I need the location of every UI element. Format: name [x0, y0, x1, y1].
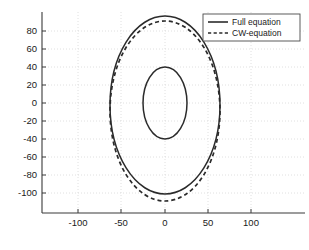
chart-legend: Full equation CW-equation [203, 14, 300, 41]
y-tick-label: -60 [23, 151, 37, 162]
y-tick-label: -80 [23, 169, 37, 180]
y-tick-label: 20 [26, 79, 37, 90]
chart-figure: 80 60 40 20 0 -20 -40 -60 -80 -100 -100 … [0, 0, 309, 250]
y-tick-label: 40 [26, 61, 37, 72]
x-tick-label: 50 [203, 217, 214, 228]
y-tick-label: -40 [23, 133, 37, 144]
y-tick-label: 60 [26, 43, 37, 54]
plot-canvas: 80 60 40 20 0 -20 -40 -60 -80 -100 -100 … [0, 0, 309, 250]
legend-label-cw-equation: CW-equation [232, 28, 282, 38]
y-tick-label: 80 [26, 25, 37, 36]
legend-label-full-equation: Full equation [232, 17, 281, 27]
plot-background [42, 12, 304, 213]
y-tick-label: -20 [23, 115, 37, 126]
y-tick-label: -100 [18, 187, 37, 198]
x-tick-label: 100 [243, 217, 259, 228]
x-tick-label: -100 [68, 217, 87, 228]
x-tick-label: 0 [162, 217, 167, 228]
x-tick-label: -50 [114, 217, 128, 228]
y-tick-label: 0 [32, 97, 37, 108]
x-axis-tick-labels: -100 -50 0 50 100 [68, 217, 258, 228]
y-axis-tick-labels: 80 60 40 20 0 -20 -40 -60 -80 -100 [18, 25, 37, 198]
